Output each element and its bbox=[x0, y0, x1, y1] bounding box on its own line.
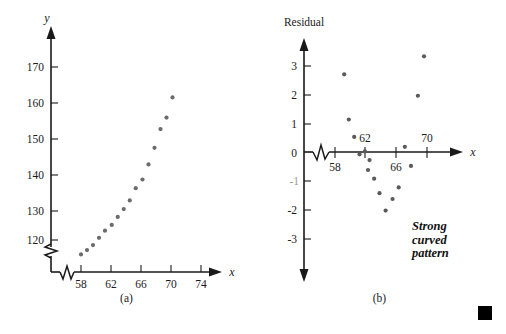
data-point bbox=[409, 164, 413, 168]
panel-b-residual-plot: 3 2 1 0 -1 -2 -3 Residual bbox=[253, 0, 506, 334]
panel-b-x-axis bbox=[304, 145, 463, 160]
data-point bbox=[366, 168, 370, 172]
data-point bbox=[79, 252, 83, 256]
data-point bbox=[377, 191, 381, 195]
panel-a-y-axis-label: y bbox=[43, 11, 50, 25]
x-tick-62: 62 bbox=[105, 278, 117, 290]
data-point bbox=[134, 186, 138, 190]
panel-b-y-axis bbox=[300, 38, 309, 282]
panel-a-y-ticks bbox=[51, 67, 58, 240]
data-point bbox=[152, 146, 156, 150]
data-point bbox=[140, 177, 144, 181]
y-tick-160: 160 bbox=[27, 97, 45, 109]
panel-b-y-axis-label: Residual bbox=[284, 16, 324, 28]
panel-b-caption: (b) bbox=[253, 292, 506, 304]
data-point bbox=[342, 72, 346, 76]
y-tick-2: 2 bbox=[291, 89, 297, 101]
panel-a-caption: (a) bbox=[0, 292, 253, 304]
panel-a-x-axis-label: x bbox=[228, 265, 235, 279]
panel-a-data-points bbox=[79, 95, 175, 256]
data-point bbox=[422, 54, 426, 58]
data-point bbox=[128, 198, 132, 202]
x-tick-66: 66 bbox=[135, 278, 147, 290]
panel-a-x-ticks bbox=[81, 265, 201, 272]
data-point bbox=[397, 185, 401, 189]
x-tick-66: 66 bbox=[390, 161, 402, 173]
panel-a-x-ticklabels: 58 62 66 70 74 bbox=[75, 278, 207, 290]
data-point bbox=[103, 229, 107, 233]
data-point bbox=[352, 135, 356, 139]
panel-b-plot-svg: 3 2 1 0 -1 -2 -3 Residual bbox=[253, 0, 506, 334]
figure-residual-plots: 170 160 150 140 130 120 y bbox=[0, 0, 506, 334]
end-of-section-marker bbox=[478, 306, 492, 320]
data-point bbox=[390, 197, 394, 201]
data-point bbox=[357, 152, 361, 156]
panel-b-data-points bbox=[342, 54, 426, 212]
data-point bbox=[146, 162, 150, 166]
panel-a-plot-svg: 170 160 150 140 130 120 y bbox=[0, 0, 253, 334]
data-point bbox=[416, 94, 420, 98]
y-tick-minus-3: -3 bbox=[287, 233, 297, 245]
data-point bbox=[110, 223, 114, 227]
x-tick-62: 62 bbox=[359, 132, 371, 144]
data-point bbox=[170, 95, 174, 99]
panel-b-y-ticklabels: 3 2 1 0 -1 -2 -3 bbox=[287, 60, 299, 245]
x-tick-58: 58 bbox=[75, 278, 87, 290]
data-point bbox=[367, 158, 371, 162]
x-tick-74: 74 bbox=[195, 278, 207, 290]
data-point bbox=[403, 145, 407, 149]
y-tick-1: 1 bbox=[291, 118, 297, 130]
data-point bbox=[85, 248, 89, 252]
y-tick-150: 150 bbox=[27, 133, 45, 145]
data-point bbox=[91, 243, 95, 247]
curved-pattern-annotation: Strong curved pattern bbox=[412, 220, 482, 261]
x-tick-58: 58 bbox=[329, 161, 341, 173]
y-tick-130: 130 bbox=[27, 205, 45, 217]
x-tick-70: 70 bbox=[421, 132, 433, 144]
y-tick-minus-1: -1 bbox=[289, 175, 299, 187]
data-point bbox=[164, 116, 168, 120]
data-point bbox=[122, 207, 126, 211]
x-tick-70: 70 bbox=[165, 278, 177, 290]
data-point bbox=[97, 236, 101, 240]
data-point bbox=[372, 177, 376, 181]
panel-a-scatterplot: 170 160 150 140 130 120 y bbox=[0, 0, 253, 334]
y-tick-minus-2: -2 bbox=[287, 204, 297, 216]
y-tick-140: 140 bbox=[27, 169, 45, 181]
y-tick-0: 0 bbox=[291, 147, 297, 159]
data-point bbox=[384, 208, 388, 212]
panel-b-x-axis-label: x bbox=[469, 145, 476, 159]
data-point bbox=[116, 215, 120, 219]
data-point bbox=[347, 117, 351, 121]
y-tick-170: 170 bbox=[27, 61, 45, 73]
panel-a-y-axis bbox=[45, 26, 57, 272]
y-tick-120: 120 bbox=[27, 234, 45, 246]
panel-a-y-ticklabels: 170 160 150 140 130 120 bbox=[27, 61, 45, 246]
data-point bbox=[363, 149, 367, 153]
y-tick-3: 3 bbox=[291, 60, 297, 72]
data-point bbox=[158, 127, 162, 131]
